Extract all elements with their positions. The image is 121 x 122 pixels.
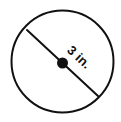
center-point-dot [57, 58, 68, 69]
geometry-diagram: 3 in. [0, 0, 121, 122]
circle-diagram-canvas [0, 0, 121, 122]
